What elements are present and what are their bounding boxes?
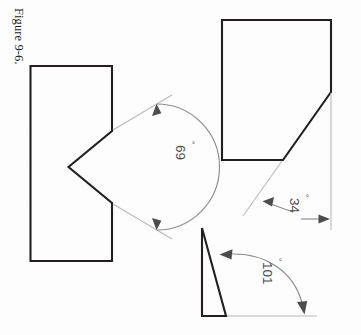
angle-101-degree-symbol: °: [274, 258, 283, 261]
angle-69-value: 69: [173, 145, 188, 160]
figure-container: Figure 9-6. 69 °: [0, 0, 361, 335]
figure-caption-label: Figure 9-6.: [12, 8, 26, 65]
figure-caption: Figure 9-6.: [12, 8, 26, 65]
angle-34-degree-symbol: °: [301, 194, 310, 197]
technical-drawing-canvas: Figure 9-6. 69 °: [0, 0, 361, 335]
angle-69-degree-symbol: °: [187, 141, 196, 144]
angle-34-value: 34: [287, 198, 302, 214]
canvas-background: [0, 0, 361, 335]
angle-101-value: 101: [260, 262, 275, 285]
